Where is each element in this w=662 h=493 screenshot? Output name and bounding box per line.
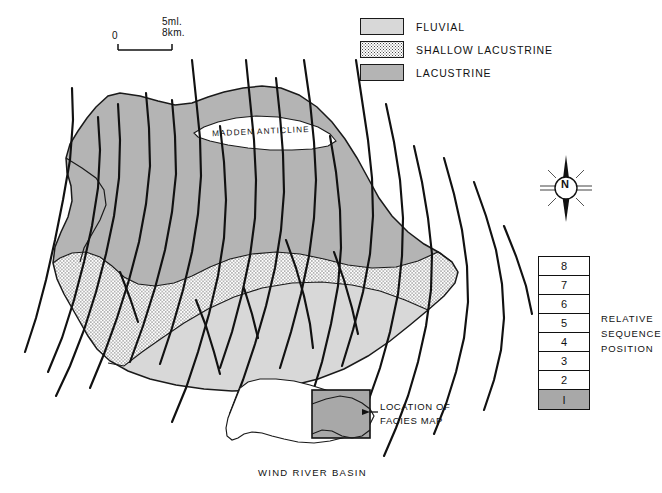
- sequence-scale-caption: RELATIVE SEQUENCE POSITION: [601, 311, 662, 356]
- sequence-cell: 3: [539, 352, 589, 371]
- location-of-facies-map-label: LOCATION OF FACIES MAP: [380, 400, 450, 428]
- legend-label-lacustrine: LACUSTRINE: [416, 67, 492, 79]
- sequence-caption-line: SEQUENCE: [601, 326, 662, 341]
- wind-river-basin-label: WIND RIVER BASIN: [258, 467, 367, 478]
- scale-bar: 0 5ml. 8km.: [100, 14, 210, 60]
- scale-miles-label: 5ml.: [162, 16, 185, 27]
- legend-label-fluvial: FLUVIAL: [416, 21, 465, 33]
- sequence-cell: 2: [539, 371, 589, 390]
- sequence-cell: 7: [539, 276, 589, 295]
- legend-swatch-fluvial-icon: [360, 18, 404, 35]
- legend-item-fluvial: FLUVIAL: [360, 18, 590, 35]
- location-label-line: FACIES MAP: [380, 414, 450, 428]
- sequence-cell: 4: [539, 333, 589, 352]
- facies-map-location-box: [312, 390, 370, 438]
- sequence-cell-highlighted: I: [539, 390, 589, 409]
- scale-zero-label: 0: [112, 30, 118, 41]
- legend-label-shallow-lacustrine: SHALLOW LACUSTRINE: [416, 44, 553, 56]
- compass-north-label: N: [561, 178, 569, 190]
- relative-sequence-scale: 8 7 6 5 4 3 2 I RELATIVE SEQUENCE POSITI…: [538, 256, 662, 410]
- sequence-cell: 5: [539, 314, 589, 333]
- legend-swatch-shallow-lacustrine-icon: [360, 41, 404, 58]
- sequence-caption-line: POSITION: [601, 341, 662, 356]
- scale-km-label: 8km.: [162, 27, 185, 38]
- sequence-caption-line: RELATIVE: [601, 311, 662, 326]
- legend-swatch-lacustrine-icon: [360, 64, 404, 81]
- legend-item-lacustrine: LACUSTRINE: [360, 64, 590, 81]
- sequence-cell: 6: [539, 295, 589, 314]
- scale-distance-labels: 5ml. 8km.: [162, 16, 185, 38]
- legend-item-shallow-lacustrine: SHALLOW LACUSTRINE: [360, 41, 590, 58]
- map-legend: FLUVIAL SHALLOW LACUSTRINE LACUSTRINE: [360, 18, 590, 87]
- sequence-cell-column: 8 7 6 5 4 3 2 I: [538, 256, 590, 410]
- sequence-cell: 8: [539, 257, 589, 276]
- location-label-line: LOCATION OF: [380, 400, 450, 414]
